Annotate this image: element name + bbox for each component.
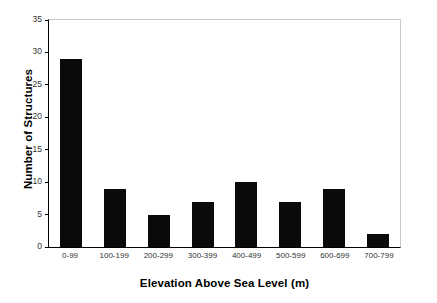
x-axis-tick-label: 400-499 [225,251,269,260]
bar-slot [93,20,137,247]
bar-slot [312,20,356,247]
x-axis-title: Elevation Above Sea Level (m) [48,277,401,289]
y-axis-tick-label: 10 [33,176,42,187]
bar-slot [137,20,181,247]
bar [104,189,126,247]
bar [279,202,301,247]
y-axis-tick-label: 35 [33,14,42,25]
x-axis-tick-label: 300-399 [180,251,224,260]
y-axis-tick-label: 20 [33,111,42,122]
bar-slot [356,20,400,247]
bar-slot [268,20,312,247]
bar-slot [181,20,225,247]
bar-slot [49,20,93,247]
bar [323,189,345,247]
x-axis-tick-label: 500-599 [269,251,313,260]
y-axis-tick-label: 0 [37,241,42,252]
bar [60,59,82,247]
y-axis-tick-label: 25 [33,79,42,90]
x-axis-tick-labels: 0-99100-199200-299300-399400-499500-5996… [48,251,401,260]
x-axis-tick-label: 200-299 [136,251,180,260]
y-axis-tick-label: 30 [33,46,42,57]
bars-layer [49,20,400,247]
x-axis-tick-label: 700-799 [357,251,401,260]
x-axis-tick-label: 600-699 [313,251,357,260]
bar-chart-figure: Number of Structures 05101520253035 0-99… [0,0,437,303]
y-axis-title: Number of Structures [22,39,34,219]
bar [148,215,170,247]
y-axis-tick-label: 5 [37,209,42,220]
y-axis-tick-label: 15 [33,144,42,155]
bar [192,202,214,247]
x-axis-tick-label: 0-99 [48,251,92,260]
bar [367,234,389,247]
bar [235,182,257,247]
bar-slot [225,20,269,247]
plot-area: 05101520253035 [48,19,401,248]
x-axis-tick-label: 100-199 [92,251,136,260]
